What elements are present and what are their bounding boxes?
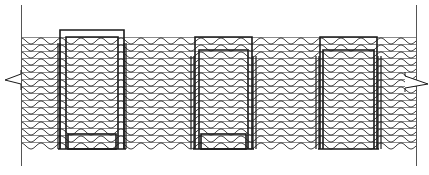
wave-line (21, 87, 416, 93)
wave-line (21, 122, 416, 128)
wave-line (21, 115, 416, 121)
wave-line (21, 101, 416, 107)
wave-line (21, 73, 416, 79)
opening-outer-frame (60, 30, 124, 149)
wave-line (21, 108, 416, 114)
left-break (5, 70, 21, 90)
wave-line (21, 80, 416, 86)
wave-line (21, 66, 416, 72)
wave-line (21, 59, 416, 65)
drawing-svg (0, 0, 429, 175)
wave-line (21, 38, 416, 44)
wave-line (21, 136, 416, 142)
elevation-drawing (0, 0, 429, 175)
wave-line (21, 52, 416, 58)
wave-line (21, 143, 416, 149)
wall-edges (22, 5, 417, 166)
wave-line (21, 94, 416, 100)
